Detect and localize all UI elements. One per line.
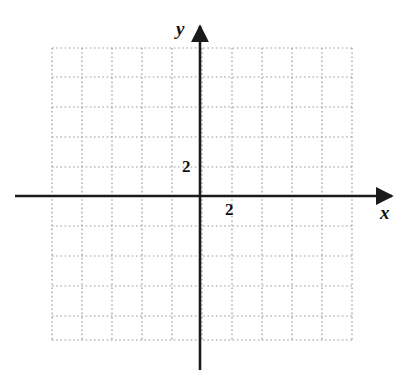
y-axis-tick-label-2: 2 [182,158,191,175]
x-axis-label: x [380,203,390,222]
y-axis-label: y [176,19,184,38]
grid-vertical-lines [52,48,352,340]
coordinate-grid-figure: y x 2 2 [0,0,409,384]
x-axis-tick-label-2: 2 [225,201,234,218]
plot-canvas [0,0,409,384]
